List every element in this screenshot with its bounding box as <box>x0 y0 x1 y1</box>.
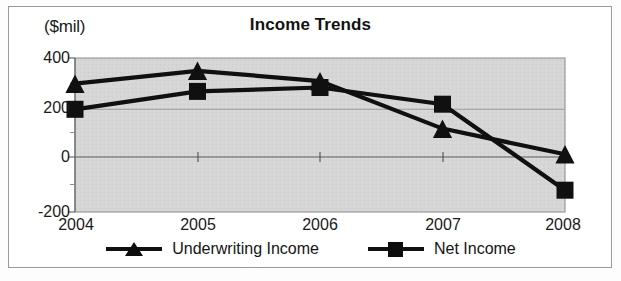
triangle-marker-icon <box>105 241 163 257</box>
x-tick-label-2004: 2004 <box>41 216 111 234</box>
legend-entry-underwriting-income: Underwriting Income <box>105 240 319 258</box>
legend-entry-net-income: Net Income <box>367 240 516 258</box>
square-marker-icon <box>367 241 425 257</box>
income-trends-figure: ($mil) Income Trends <box>0 0 621 281</box>
x-tick-label-2008: 2008 <box>528 216 598 234</box>
legend-label-underwriting-income: Underwriting Income <box>172 240 319 258</box>
y-axis-minor-ticks <box>70 83 75 185</box>
legend-label-net-income: Net Income <box>434 240 516 258</box>
x-tick-label-2006: 2006 <box>285 216 355 234</box>
x-tick-label-2005: 2005 <box>163 216 233 234</box>
chart-legend: Underwriting Income Net Income <box>0 240 621 258</box>
x-tick-label-2007: 2007 <box>408 216 478 234</box>
y-tick-label-200: 200 <box>43 99 70 117</box>
y-tick-label-400: 400 <box>43 49 70 67</box>
y-tick-label-0: 0 <box>61 148 70 166</box>
chart-plot-area <box>0 0 621 281</box>
